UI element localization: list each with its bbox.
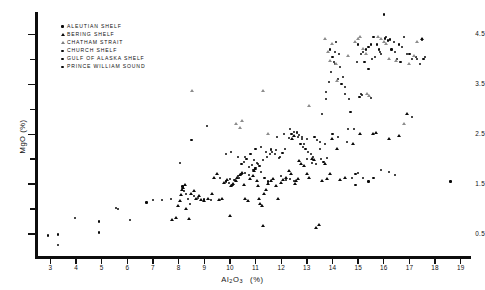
data-point — [325, 177, 329, 180]
data-point — [145, 201, 147, 203]
data-point — [251, 174, 255, 177]
data-point — [212, 176, 216, 179]
data-point — [317, 223, 321, 226]
data-point — [338, 178, 342, 181]
data-point — [178, 199, 182, 202]
data-point — [253, 159, 255, 161]
data-point — [387, 39, 389, 41]
data-point — [301, 136, 303, 138]
data-point — [322, 161, 324, 163]
data-point — [260, 171, 262, 173]
data-point — [279, 156, 281, 158]
data-point — [406, 53, 408, 55]
data-point — [311, 162, 313, 164]
data-point — [98, 220, 100, 222]
data-point — [238, 177, 240, 179]
data-point — [238, 126, 242, 129]
data-point — [390, 48, 392, 50]
data-point — [225, 178, 229, 181]
data-point — [340, 83, 342, 85]
data-point — [371, 58, 373, 60]
data-point — [260, 146, 262, 148]
data-point — [283, 133, 285, 135]
data-point — [361, 94, 363, 96]
data-point — [185, 193, 187, 195]
data-point — [117, 208, 119, 210]
data-point — [415, 40, 419, 43]
data-point — [289, 178, 291, 180]
data-point — [422, 58, 424, 60]
data-point — [387, 57, 391, 60]
data-point — [152, 199, 154, 201]
data-point — [231, 184, 233, 186]
data-point — [307, 104, 311, 107]
data-point — [312, 158, 316, 161]
data-point — [206, 125, 208, 127]
data-point — [394, 59, 398, 62]
data-point — [129, 219, 131, 221]
data-point — [315, 163, 317, 165]
data-point — [266, 156, 268, 158]
data-point — [290, 133, 292, 135]
data-point — [331, 133, 333, 135]
data-point — [237, 156, 239, 158]
data-point — [179, 193, 183, 196]
data-point — [261, 89, 265, 92]
data-point — [330, 42, 334, 45]
data-point — [356, 61, 358, 63]
data-point — [296, 177, 300, 180]
data-point — [394, 174, 396, 176]
data-point — [420, 37, 424, 40]
data-point — [256, 184, 260, 187]
data-point — [262, 192, 266, 195]
data-point — [74, 217, 76, 219]
data-point — [346, 141, 348, 143]
data-point — [389, 38, 391, 40]
data-point — [261, 224, 265, 227]
data-points-layer — [0, 0, 485, 290]
data-point — [419, 63, 421, 65]
data-point — [181, 186, 185, 189]
data-point — [401, 46, 403, 48]
data-point — [289, 172, 293, 175]
data-point — [343, 176, 347, 179]
data-point — [296, 131, 298, 133]
data-point — [255, 179, 259, 182]
data-point — [281, 152, 283, 154]
data-point — [183, 183, 187, 186]
data-point — [285, 179, 287, 181]
data-point — [266, 132, 270, 135]
data-point — [276, 136, 278, 138]
data-point — [412, 54, 416, 57]
data-point — [344, 86, 346, 88]
data-point — [411, 116, 413, 118]
data-point — [47, 234, 49, 236]
data-point — [416, 58, 418, 60]
data-point — [284, 148, 286, 150]
data-point — [363, 61, 365, 63]
data-point — [271, 151, 273, 153]
data-point — [351, 177, 353, 179]
data-point — [335, 41, 337, 43]
data-point — [274, 153, 276, 155]
data-point — [174, 216, 178, 219]
data-point — [398, 43, 400, 45]
data-point — [161, 199, 163, 201]
data-point — [344, 93, 346, 95]
data-point — [304, 148, 306, 150]
data-point — [353, 128, 355, 130]
data-point — [189, 203, 191, 205]
data-point — [243, 161, 245, 163]
data-point — [187, 198, 189, 200]
data-point — [170, 198, 172, 200]
data-point — [276, 197, 280, 200]
data-point — [335, 147, 339, 150]
data-point — [260, 204, 264, 207]
data-point — [346, 54, 350, 57]
data-point — [269, 153, 271, 155]
data-point — [220, 197, 224, 200]
data-point — [388, 171, 390, 173]
data-point — [219, 177, 221, 179]
data-point — [234, 122, 238, 125]
data-point — [374, 56, 376, 58]
